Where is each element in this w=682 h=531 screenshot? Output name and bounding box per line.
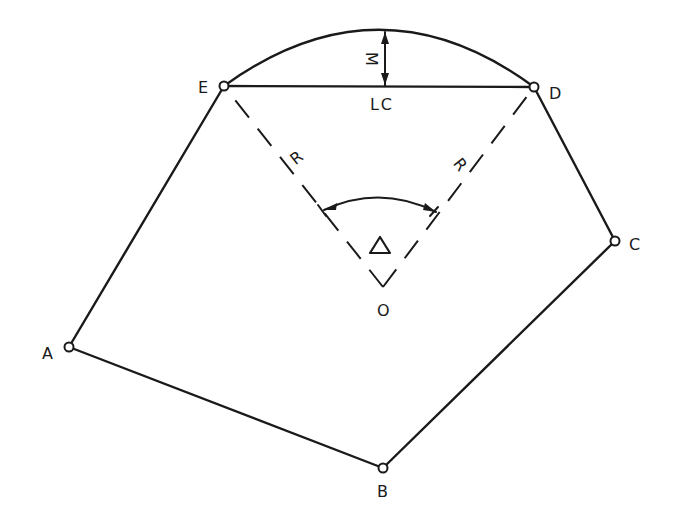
radius-label-left: R [286,147,306,169]
long-chord [224,86,534,87]
arrow-down-icon [381,73,389,85]
curve-diagram: M LC R R A B C D E O [0,0,682,531]
edge-C-D [534,87,615,241]
angle-arrow-right-icon [423,203,436,212]
point-D [530,83,539,92]
label-E: E [198,78,208,97]
radius-label-right: R [449,154,471,174]
point-E [220,82,229,91]
long-chord-label: LC [370,95,394,114]
arrow-up-icon [381,32,389,44]
delta-icon [370,237,390,253]
label-B: B [377,482,388,501]
point-A [65,343,74,352]
point-B [379,464,388,473]
point-C [611,237,620,246]
label-A: A [42,344,53,363]
edge-A-B [69,347,383,468]
label-C: C [629,235,640,254]
edge-B-C [383,241,615,468]
label-O: O [377,301,390,320]
middle-ordinate-label: M [362,52,381,66]
central-angle-arc [324,197,436,212]
edge-E-A [69,86,224,347]
radius-O-D [383,87,534,287]
radius-O-E [224,86,383,287]
label-D: D [549,84,561,103]
